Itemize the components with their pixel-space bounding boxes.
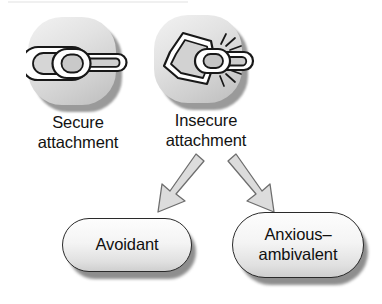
outcome-anxious-ambivalent: Anxious– ambivalent	[232, 212, 374, 290]
arrow-to-anxious-icon	[228, 154, 274, 212]
broken-chain-link-icon	[152, 14, 256, 110]
insecure-attachment-label: Insecure attachment	[136, 110, 276, 150]
secure-attachment-node	[26, 16, 130, 112]
avoidant-label: Avoidant	[95, 235, 158, 255]
pill-face: Avoidant	[62, 218, 192, 272]
pill-face: Anxious– ambivalent	[232, 212, 364, 278]
intact-chain-link-icon	[26, 16, 130, 112]
anxious-ambivalent-label: Anxious– ambivalent	[259, 225, 338, 265]
attachment-styles-diagram: Secure attachment	[0, 0, 382, 304]
arrow-to-avoidant-icon	[158, 154, 204, 212]
outcome-avoidant: Avoidant	[62, 218, 202, 284]
top-rule-divider	[8, 1, 188, 3]
secure-attachment-label: Secure attachment	[8, 112, 148, 152]
insecure-attachment-node	[152, 14, 256, 110]
